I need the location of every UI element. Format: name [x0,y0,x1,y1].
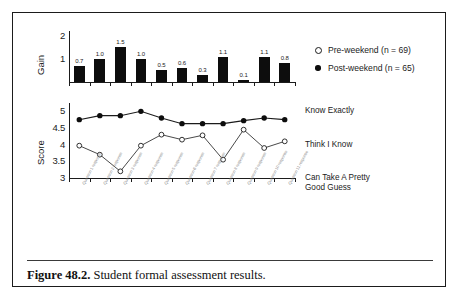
gain-x-tick [131,82,132,86]
score-x-tick [151,178,152,182]
score-point-pre-weekend [200,133,205,138]
score-point-post-weekend [77,117,82,122]
score-point-post-weekend [97,113,102,118]
gain-bar [279,63,290,82]
gain-y-tick-label: 2 [47,30,65,41]
score-right-axis-label: Can Take A PrettyGood Guess [305,173,370,192]
gain-x-tick [254,82,255,86]
gain-bar [218,57,229,83]
score-point-post-weekend [220,121,225,126]
caption-label: Figure 48.2. [27,268,90,282]
score-point-pre-weekend [262,146,267,151]
score-x-tick [90,178,91,182]
gain-x-tick [172,82,173,86]
gain-x-tick [110,82,111,86]
gain-axis-title: Gain [35,55,46,75]
legend-label-post-weekend: Post-weekend (n = 65) [328,63,415,73]
score-point-post-weekend [282,117,287,122]
gain-x-tick [233,82,234,86]
gain-bar [94,59,105,82]
score-x-tick [295,178,296,182]
score-x-tick [233,178,234,182]
gain-x-tick [90,82,91,86]
score-right-axis-label: Know Exactly [305,106,354,116]
gain-bar-value-label: 0.3 [193,67,213,73]
score-point-pre-weekend [118,169,123,174]
gain-bar [197,75,208,82]
score-point-pre-weekend [180,137,185,142]
caption-text: Student formal assessment results. [93,268,265,282]
score-x-tick [131,178,132,182]
gain-bar [177,68,188,82]
figure-caption: Figure 48.2. Student formal assessment r… [27,268,437,283]
gain-bar-value-label: 0.1 [234,72,254,78]
legend-label-pre-weekend: Pre-weekend (n = 69) [328,45,411,55]
gain-bar-value-label: 1.1 [213,49,233,55]
score-x-tick [110,178,111,182]
gain-y-tick-label: 1 [47,53,65,64]
gain-bar [115,47,126,82]
score-point-pre-weekend [139,143,144,148]
legend: Pre-weekend (n = 69) Post-weekend (n = 6… [313,43,415,79]
gain-bar-value-label: 1.5 [110,39,130,45]
caption-divider [27,260,433,261]
score-point-post-weekend [261,115,266,120]
score-x-tick [274,178,275,182]
legend-item-post-weekend: Post-weekend (n = 65) [313,61,415,75]
gain-bar [136,59,147,82]
gain-bar-value-label: 1.1 [254,49,274,55]
score-point-post-weekend [179,121,184,126]
score-line-chart: Score 33.544.55 Know ExactlyThink I Know… [13,97,447,241]
score-point-post-weekend [118,113,123,118]
gain-x-tick [69,82,70,86]
gain-x-tick [213,82,214,86]
gain-bar-value-label: 0.8 [275,55,295,61]
gain-x-tick [151,82,152,86]
gain-bar [259,57,270,83]
gain-bar-value-label: 1.0 [90,51,110,57]
score-point-post-weekend [138,109,143,114]
gain-x-tick [274,82,275,86]
score-point-pre-weekend [159,132,164,137]
score-point-post-weekend [200,121,205,126]
filled-circle-icon [313,65,323,71]
score-x-tick [172,178,173,182]
legend-item-pre-weekend: Pre-weekend (n = 69) [313,43,415,57]
gain-x-axis [69,82,295,83]
gain-bar [74,66,85,82]
score-x-tick [192,178,193,182]
gain-bar-value-label: 1.0 [131,51,151,57]
score-x-tick [254,178,255,182]
score-right-axis-label: Think I Know [305,140,352,150]
score-point-pre-weekend [77,143,82,148]
open-circle-icon [313,47,323,54]
gain-x-tick [295,82,296,86]
score-point-pre-weekend [241,127,246,132]
score-point-post-weekend [241,118,246,123]
score-x-tick [69,178,70,182]
score-point-post-weekend [159,115,164,120]
gain-bar-value-label: 0.5 [151,62,171,68]
gain-bar-value-label: 0.6 [172,60,192,66]
gain-bar [238,80,249,82]
gain-x-tick [192,82,193,86]
figure-frame: Gain 12 0.71.01.51.00.50.60.31.10.11.10.… [12,12,446,287]
gain-bar [156,70,167,82]
gain-bar-value-label: 0.7 [69,58,89,64]
score-point-pre-weekend [282,139,287,144]
